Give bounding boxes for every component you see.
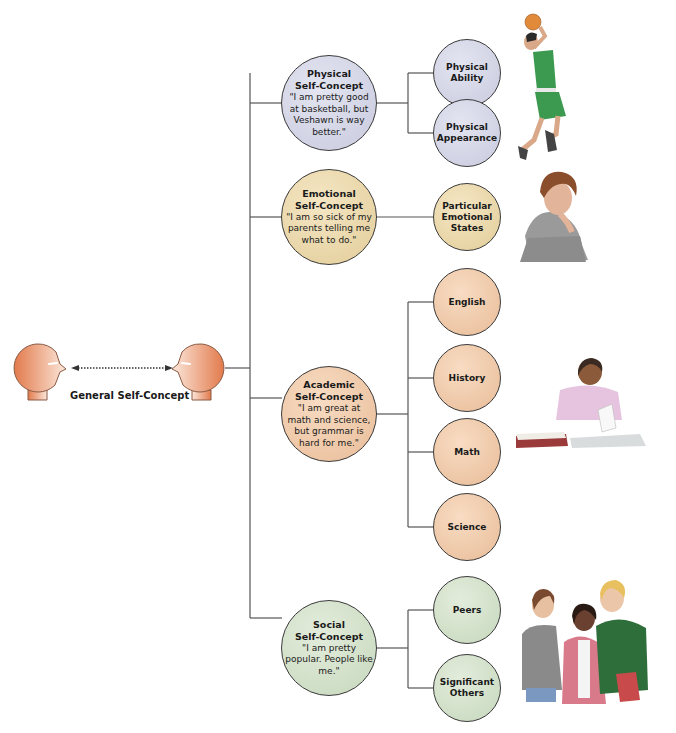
node-quote: "I am pretty popular. People like me." <box>285 643 373 678</box>
node-title: Emotional <box>302 188 356 200</box>
node-title: Academic <box>303 379 354 391</box>
emotional-self-concept-node: Emotional Self-Concept "I am so sick of … <box>281 169 377 265</box>
english-node: English <box>433 268 501 336</box>
node-label: Physical <box>446 62 488 73</box>
history-node: History <box>433 344 501 412</box>
node-title: Self-Concept <box>295 80 363 92</box>
physical-appearance-node: Physical Appearance <box>433 99 501 167</box>
dotted-double-arrow <box>71 365 173 371</box>
node-title: Social <box>313 619 345 631</box>
node-label: Emotional <box>442 212 493 223</box>
physical-self-concept-node: Physical Self-Concept "I am pretty good … <box>281 55 377 151</box>
particular-emotional-states-node: Particular Emotional States <box>433 183 501 251</box>
group-of-friends-illustration <box>522 580 648 704</box>
node-label: Appearance <box>437 133 497 144</box>
node-title: Self-Concept <box>295 391 363 403</box>
student-reading-illustration <box>516 358 646 448</box>
physical-ability-node: Physical Ability <box>433 39 501 107</box>
left-head-icon <box>14 344 66 400</box>
node-label: Others <box>450 688 484 699</box>
node-label: Significant <box>440 677 494 688</box>
node-title: Physical <box>307 68 351 80</box>
social-self-concept-node: Social Self-Concept "I am pretty popular… <box>281 600 377 696</box>
science-node: Science <box>433 493 501 561</box>
node-title: Self-Concept <box>295 631 363 643</box>
node-title: Self-Concept <box>295 200 363 212</box>
node-label: History <box>449 373 486 384</box>
significant-others-node: Significant Others <box>433 654 501 722</box>
node-label: English <box>449 297 486 308</box>
general-self-concept-label: General Self-Concept <box>70 390 189 401</box>
node-quote: "I am great at math and science, but gra… <box>286 403 372 449</box>
node-quote: "I am so sick of my parents telling me w… <box>286 212 372 247</box>
academic-self-concept-node: Academic Self-Concept "I am great at mat… <box>281 366 377 462</box>
node-label: Science <box>448 522 487 533</box>
node-label: Physical <box>446 122 488 133</box>
math-node: Math <box>433 418 501 486</box>
node-label: Particular <box>442 201 492 212</box>
node-label: States <box>451 223 484 234</box>
node-label: Ability <box>451 73 484 84</box>
sulking-teen-illustration <box>520 172 588 262</box>
basketball-player-illustration <box>518 14 566 160</box>
node-quote: "I am pretty good at basketball, but Ves… <box>285 92 373 138</box>
node-label: Math <box>454 447 480 458</box>
peers-node: Peers <box>433 576 501 644</box>
node-label: Peers <box>453 605 482 616</box>
